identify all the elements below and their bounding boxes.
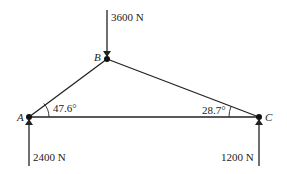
joint-b — [104, 56, 110, 62]
angle-label-c: 28.7° — [202, 104, 226, 116]
node-label-a: A — [16, 111, 24, 123]
joint-a — [26, 114, 32, 120]
angle-arc-c — [229, 106, 231, 117]
member-bc — [107, 59, 259, 117]
force-label-c: 1200 N — [221, 151, 254, 163]
truss-diagram: A B C 47.6° 28.7° 3600 N 2400 N 1200 N — [0, 0, 287, 174]
node-label-c: C — [265, 111, 273, 123]
angle-label-a: 47.6° — [53, 102, 77, 114]
node-label-b: B — [94, 51, 101, 63]
force-label-a: 2400 N — [33, 151, 66, 163]
force-label-b: 3600 N — [111, 11, 144, 23]
joint-c — [256, 114, 262, 120]
